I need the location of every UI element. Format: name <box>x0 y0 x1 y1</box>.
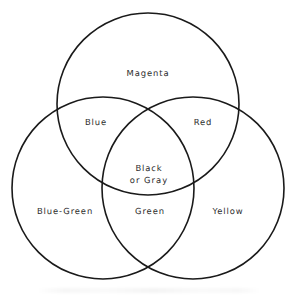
region-label-red: Red <box>194 117 213 128</box>
region-label-green: Green <box>135 206 165 217</box>
region-label-black-or-gray: Black or Gray <box>130 163 168 186</box>
venn-diagram: Magenta Blue Red Black or Gray Blue-Gree… <box>0 0 295 297</box>
venn-circles-group <box>0 0 295 297</box>
region-label-black-or-gray-line1: Black <box>130 163 168 175</box>
region-label-blue-green: Blue-Green <box>37 206 93 217</box>
region-label-magenta: Magenta <box>127 68 170 79</box>
region-label-blue: Blue <box>85 117 107 128</box>
region-label-yellow: Yellow <box>212 206 243 217</box>
region-label-black-or-gray-line2: or Gray <box>130 174 168 186</box>
